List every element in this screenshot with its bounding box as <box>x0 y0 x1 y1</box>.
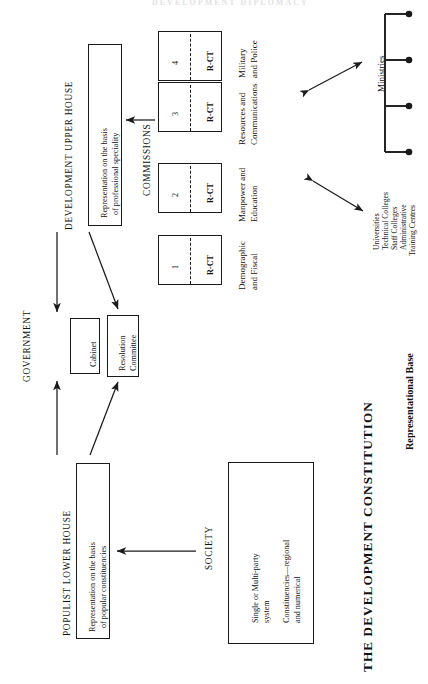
society-box: Single or Multi-party system Constituenc… <box>228 462 314 644</box>
commission-box-4: 4 R-CT <box>158 31 222 81</box>
upper-house-box-line2: of professional speciality <box>111 133 121 215</box>
society-box-line3: Constituencies—regional <box>282 540 292 623</box>
commission-divider-2 <box>190 166 191 212</box>
lower-house-box-line1: Representation on the basis <box>88 542 98 632</box>
government-label: GOVERNMENT <box>22 310 32 382</box>
commission-number-1: 1 <box>171 265 181 269</box>
society-box-line1: Single or Multi-party <box>251 553 261 623</box>
arrow-lower-house-to-resolution-committee <box>90 382 118 455</box>
resolution-committee-box: Resolution Committee <box>107 315 139 377</box>
cabinet-box: Cabinet <box>70 318 100 374</box>
arrow-commissions-ministries <box>309 62 362 90</box>
commission-label-4-line2: and Police <box>249 40 259 78</box>
institution-training-centres: Training Centres <box>408 205 417 256</box>
lower-house-box: Representation on the basis of popular c… <box>76 463 110 639</box>
commission-box-3: 3 R-CT <box>158 82 222 132</box>
figure-canvas: DEVELOPMENT DIPLOMACY THE DEVELOPMENT CO… <box>0 0 428 684</box>
commission-number-3: 3 <box>171 112 181 116</box>
page-running-head: DEVELOPMENT DIPLOMACY <box>152 0 309 7</box>
commission-label-3-line2: Communications <box>249 84 259 146</box>
upper-house-box: Representation on the basis of professio… <box>88 44 122 226</box>
upper-house-label: DEVELOPMENT UPPER HOUSE <box>64 81 74 230</box>
page-title: THE DEVELOPMENT CONSTITUTION <box>360 401 376 672</box>
commission-code-3: R-CT <box>206 102 216 122</box>
commission-code-1: R-CT <box>206 255 216 275</box>
representational-base-label: Representational Base <box>404 353 415 450</box>
institution-technical-colleges: Technical Colleges <box>381 192 390 250</box>
upper-house-box-line1: Representation on the basis <box>100 128 110 218</box>
resolution-committee-line2: Committee <box>129 335 139 371</box>
cabinet-box-label: Cabinet <box>89 342 99 367</box>
society-label: SOCIETY <box>204 526 214 570</box>
arrow-upper-house-to-resolution-committee <box>89 232 118 309</box>
commissions-label: COMMISSIONS <box>142 124 152 196</box>
resolution-committee-line1: Resolution <box>118 336 128 371</box>
society-box-line4: and numerical <box>293 576 303 623</box>
commission-box-2: 2 R-CT <box>158 163 222 213</box>
lower-house-box-line2: of popular constituencies <box>99 546 109 628</box>
commission-label-1-line2: and Fiscal <box>249 253 259 290</box>
commission-number-2: 2 <box>171 193 181 197</box>
lower-house-label: POPULIST LOWER HOUSE <box>62 510 72 636</box>
institution-universities: Universities <box>372 213 381 250</box>
society-box-line2: system <box>262 600 272 623</box>
commission-number-4: 4 <box>171 61 181 65</box>
institution-administrative: Administrative <box>399 204 408 250</box>
commission-label-3-line1: Resources and <box>237 93 247 145</box>
ministries-label: Ministries <box>376 55 386 92</box>
commission-divider-4 <box>190 34 191 80</box>
commission-label-2-line2: Education <box>249 186 259 223</box>
commission-code-4: R-CT <box>206 51 216 71</box>
commission-code-2: R-CT <box>206 183 216 203</box>
institution-staff-colleges: Staff Colleges <box>390 207 399 250</box>
commission-divider-3 <box>190 85 191 131</box>
ministries-bracket <box>385 11 412 156</box>
arrow-commissions-institutions <box>313 181 363 211</box>
commission-label-2-line1: Manpower and <box>237 168 247 222</box>
commission-label-4-line1: Military <box>237 49 247 79</box>
commission-label-1-line1: Demographic <box>237 241 247 290</box>
commission-divider-1 <box>190 238 191 284</box>
commission-box-1: 1 R-CT <box>158 235 222 285</box>
